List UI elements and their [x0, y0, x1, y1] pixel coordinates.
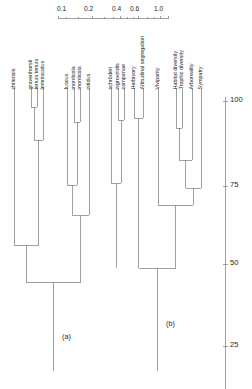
leaf-label-nitidus: nitidus [86, 74, 91, 90]
leaf-label-arboreality: Arboreality [189, 63, 194, 89]
dendrogram-figure: 0.1 0.2 0.4 0.6 1.0 chilensis gravenhors… [0, 0, 252, 389]
axis-tick-50: 50 [230, 258, 238, 267]
leaf-label-lemniscatus: lemniscatus [40, 61, 45, 90]
leaf-label-trophic-diversity: Trophic diversity [179, 50, 184, 89]
leaf-label-herbivory: Herbivory [131, 66, 136, 89]
leaf-label-chilensis: chilensis [11, 69, 16, 90]
axis-tick-25: 25 [230, 340, 238, 349]
scale-tick-0.2: 0.2 [84, 5, 93, 12]
scale-tick-0.6: 0.6 [130, 5, 139, 12]
top-scale-bar [58, 16, 168, 19]
scale-tick-0.1: 0.1 [57, 5, 66, 12]
cluster-label-a: (a) [62, 332, 71, 341]
leaf-label-sympatry: Sympatry [198, 66, 203, 89]
axis-tick-100: 100 [230, 95, 243, 104]
cluster-label-b: (b) [166, 319, 175, 328]
leaf-label-monticola-2: monticola [77, 66, 82, 89]
scale-tick-1.0: 1.0 [154, 5, 163, 12]
right-axis [223, 97, 228, 389]
leaf-label-viviparity: Viviparity [155, 67, 160, 89]
axis-tick-75: 75 [230, 180, 238, 189]
leaf-label-fuscus: fuscus [64, 74, 69, 90]
leaf-label-altitudinal-segregation: Altitudinal segregation [140, 36, 145, 90]
leaf-label-campanae: campanae [121, 64, 126, 89]
leaf-label-schroederi: schröderi [108, 67, 113, 89]
scale-tick-0.4: 0.4 [112, 5, 121, 12]
